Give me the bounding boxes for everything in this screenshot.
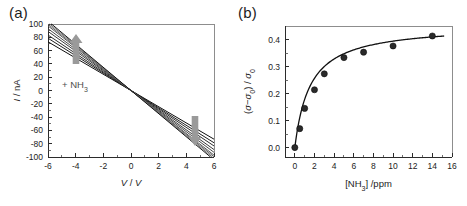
figure-container: (a) -100-80-60-40-20020406080100-6-4-202… (0, 0, 467, 206)
x-tick-label: 4 (184, 161, 189, 171)
x-tick-label: 0 (292, 161, 297, 171)
x-axis-label: V / V (121, 177, 143, 188)
panel-b: (b) 0.00.10.20.30.40246810121416[NH3] /p… (233, 0, 467, 206)
x-tick-label: 12 (408, 161, 418, 171)
y-axis-label: (σ−σ0) / σ0 (242, 69, 256, 114)
sigma-symbol: σ (242, 104, 253, 111)
fit-curve (295, 36, 444, 148)
x-axis-label-unit: V (135, 177, 143, 188)
x-tick-label: 6 (351, 161, 356, 171)
y-tick-label: 0.3 (268, 62, 280, 72)
y-tick-label: -100 (26, 152, 43, 162)
data-point (297, 126, 303, 132)
y-tick-label: 0.1 (268, 116, 280, 126)
data-point (360, 49, 366, 55)
data-point (321, 71, 327, 77)
x-tick-label: -2 (100, 161, 108, 171)
y-tick-label: 40 (34, 59, 44, 69)
y-tick-label: 0.4 (268, 35, 280, 45)
x-tick-label: 6 (212, 161, 217, 171)
x-tick-label: 8 (371, 161, 376, 171)
y-tick-label: 0.2 (268, 89, 280, 99)
x-tick-label: 0 (129, 161, 134, 171)
sigma-zero-denominator-subscript: 0 (249, 69, 256, 73)
panel-a: (a) -100-80-60-40-20020406080100-6-4-202… (0, 0, 233, 206)
x-tick-label: 2 (156, 161, 161, 171)
x-tick-label: -4 (72, 161, 80, 171)
x-axis-label-symbol: V (121, 177, 129, 188)
y-tick-label: -80 (31, 139, 44, 149)
data-point (341, 55, 347, 61)
x-axis-label: [NH3] /ppm (345, 178, 392, 192)
x-tick-label: 10 (388, 161, 398, 171)
data-point (390, 43, 396, 49)
data-point (429, 33, 435, 39)
x-tick-label: 2 (312, 161, 317, 171)
x-tick-label: 4 (332, 161, 337, 171)
y-tick-label: 80 (34, 32, 44, 42)
data-point (292, 144, 298, 150)
x-axis-label-subscript: 3 (362, 185, 366, 192)
sigma-zero-subscript: 0 (249, 90, 256, 94)
y-tick-label: -40 (31, 112, 44, 122)
x-tick-label: 14 (428, 161, 438, 171)
panel-b-plot: 0.00.10.20.30.40246810121416[NH3] /ppm(σ… (233, 0, 467, 206)
x-tick-label: 16 (447, 161, 457, 171)
nh3-subscript: 3 (84, 86, 88, 93)
y-tick-label: -60 (31, 125, 44, 135)
y-tick-label: 100 (29, 19, 43, 29)
data-point (311, 87, 317, 93)
y-tick-label: 60 (34, 46, 44, 56)
y-tick-label: 0.0 (268, 143, 280, 153)
y-tick-label: -20 (31, 99, 44, 109)
panel-a-plot: -100-80-60-40-20020406080100-6-4-20246+ … (0, 0, 233, 206)
data-point (302, 105, 308, 111)
nh3-annotation: + NH3 (62, 79, 88, 93)
x-tick-label: -6 (44, 161, 52, 171)
y-axis-label-symbol: I (11, 99, 22, 102)
y-tick-label: 20 (34, 72, 44, 82)
y-tick-label: 0 (38, 86, 43, 96)
y-axis-label: I / nA (11, 79, 22, 102)
